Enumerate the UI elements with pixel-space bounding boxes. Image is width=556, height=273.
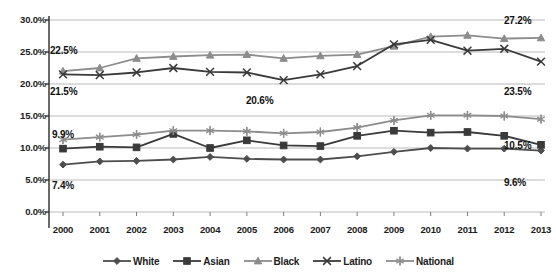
square-marker (207, 145, 214, 152)
square-icon (172, 255, 202, 267)
y-axis-label: 25.0% (0, 46, 46, 57)
legend-label: Asian (203, 256, 229, 267)
x-axis-label: 2006 (264, 224, 304, 235)
y-axis-label: 20.0% (0, 78, 46, 89)
diamond-marker (243, 155, 250, 162)
legend-label: White (133, 256, 159, 267)
legend-item-asian[interactable]: Asian (172, 255, 229, 267)
x-axis-label: 2012 (484, 224, 524, 235)
diamond-marker (96, 158, 103, 165)
line-chart: 30.0%25.0%20.0%15.0%10.0%5.0%0.0% 200020… (0, 0, 556, 273)
x-axis-label: 2004 (190, 224, 230, 235)
x-axis-label: 2002 (117, 224, 157, 235)
data-label-latino-2013: 23.5% (504, 86, 531, 97)
y-axis-label: 5.0% (0, 174, 46, 185)
data-label-latino-2000: 21.5% (50, 86, 77, 97)
x-axis-label: 2000 (43, 224, 83, 235)
y-axis-label: 15.0% (0, 110, 46, 121)
x-axis-label: 2011 (447, 224, 487, 235)
square-marker (96, 143, 103, 150)
x-axis-label: 2010 (411, 224, 451, 235)
triangle-icon (243, 255, 273, 267)
x-axis-label: 2009 (374, 224, 414, 235)
x-axis-label: 2003 (153, 224, 193, 235)
diamond-marker (427, 145, 434, 152)
data-label-white-2013: 9.6% (504, 177, 526, 188)
chart-legend: WhiteAsianBlackLatinoNational (0, 252, 556, 270)
diamond-marker (464, 145, 471, 152)
diamond-icon (102, 255, 132, 267)
square-marker (244, 137, 251, 144)
square-marker (464, 129, 471, 136)
legend-item-national[interactable]: National (385, 255, 454, 267)
square-marker (280, 142, 287, 149)
square-marker (60, 145, 67, 152)
diamond-marker (317, 156, 324, 163)
data-label-asian-2000: 9.9% (52, 129, 74, 140)
legend-item-white[interactable]: White (102, 255, 159, 267)
diamond-marker (170, 156, 177, 163)
asterisk-icon (385, 255, 415, 267)
x-axis-label: 2005 (227, 224, 267, 235)
square-marker (391, 127, 398, 134)
square-marker (133, 144, 140, 151)
y-axis-label: 0.0% (0, 206, 46, 217)
diamond-marker (133, 157, 140, 164)
square-marker (184, 258, 191, 265)
x-axis-label: 2007 (300, 224, 340, 235)
y-axis-label: 30.0% (0, 14, 46, 25)
data-label-black-2000: 22.5% (50, 45, 77, 56)
data-label-national-2013: 10.5% (504, 140, 531, 151)
square-marker (427, 129, 434, 136)
data-label-white-2000: 7.4% (52, 180, 74, 191)
square-marker (317, 143, 324, 150)
y-axis-label: 10.0% (0, 142, 46, 153)
x-axis-label: 2001 (80, 224, 120, 235)
legend-item-latino[interactable]: Latino (312, 255, 372, 267)
x-axis-label: 2013 (521, 224, 556, 235)
legend-label: Latino (343, 256, 372, 267)
diamond-marker (207, 154, 214, 161)
x-axis-label: 2008 (337, 224, 377, 235)
data-label-black-2013: 27.2% (504, 15, 531, 26)
legend-label: Black (274, 256, 300, 267)
legend-item-black[interactable]: Black (243, 255, 300, 267)
square-marker (538, 142, 545, 149)
diamond-marker (391, 148, 398, 155)
series-black (59, 32, 544, 75)
diamond-marker (114, 258, 121, 265)
diamond-marker (280, 156, 287, 163)
square-marker (501, 133, 508, 140)
data-label-latino-2006: 20.6% (246, 95, 273, 106)
x-icon (312, 255, 342, 267)
square-marker (354, 133, 361, 140)
diamond-marker (60, 161, 67, 168)
diamond-marker (354, 153, 361, 160)
legend-label: National (416, 256, 454, 267)
